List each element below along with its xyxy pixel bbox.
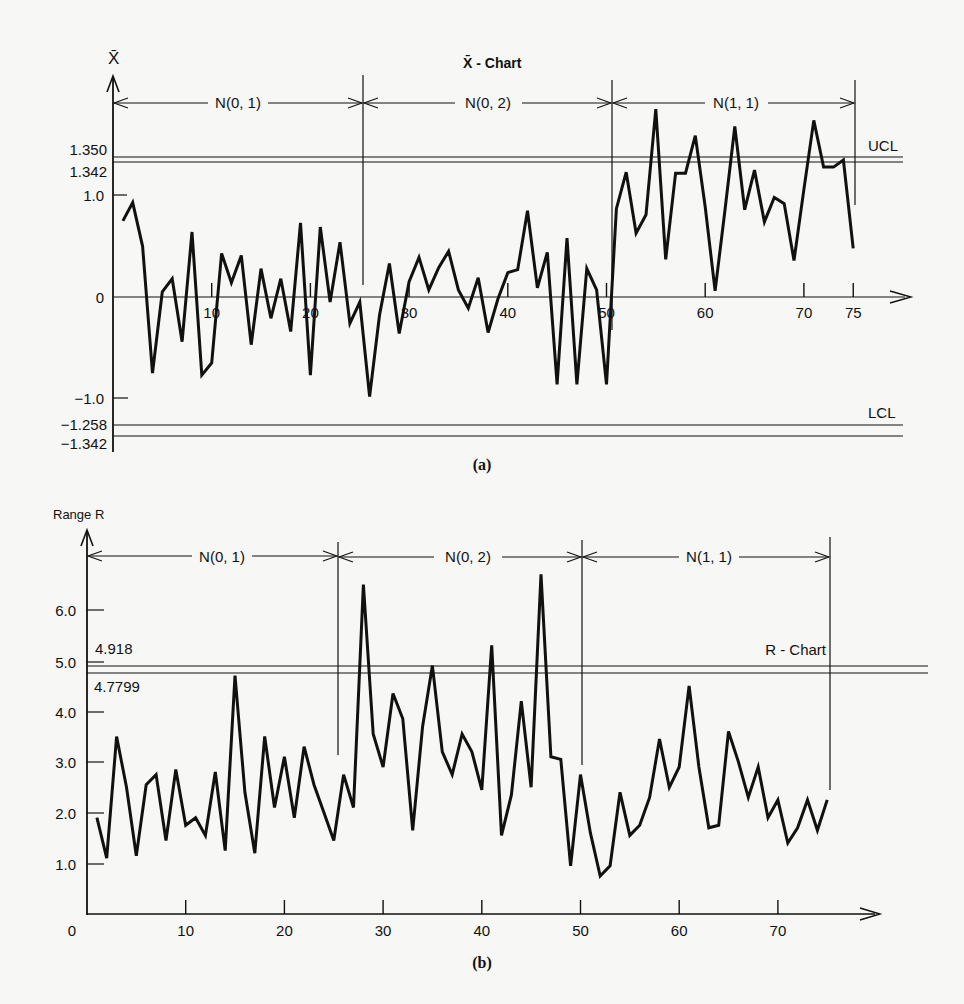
y-tick-label: 2.0 [55,805,76,822]
x-tick-label: 60 [671,922,688,939]
segment-label: N(0, 1) [199,548,245,565]
y-tick-label: 1.0 [83,187,104,204]
segment-label: N(0, 2) [445,548,491,565]
y-tick-label: 1.350 [69,141,107,158]
x-tick-label: 70 [770,922,787,939]
control-charts-figure: X̄ X̄ - Chart N(0, 1) N(0, 2) N(1, 1) UC… [0,0,964,1004]
range-chart-title: R - Chart [765,641,827,658]
range-limit-label: 4.918 [95,640,133,657]
y-tick-label: 3.0 [55,754,76,771]
range-data-line [97,574,827,876]
y-tick-label: 5.0 [55,654,76,671]
segment-label: N(0, 2) [465,94,511,111]
x-tick-label: 75 [845,304,862,321]
y-tick-label: 0 [68,922,76,939]
panel-a-caption: (a) [473,456,492,474]
x-tick-label: 10 [177,922,194,939]
y-tick-label: −1.258 [61,416,107,433]
range-x-ticks: 10203040506070 [177,900,786,939]
segment-label: N(1, 1) [686,548,732,565]
x-tick-label: 40 [473,922,490,939]
segment-label: N(1, 1) [713,94,759,111]
x-tick-label: 40 [499,304,516,321]
xbar-data-line [123,109,853,396]
y-tick-label: 1.342 [69,163,107,180]
y-tick-label: 6.0 [55,602,76,619]
y-tick-label: 0 [96,289,104,306]
xbar-chart: X̄ X̄ - Chart N(0, 1) N(0, 2) N(1, 1) UC… [61,49,911,474]
y-tick-label: 1.0 [55,856,76,873]
xbar-y-label: X̄ [108,49,119,68]
segment-label: N(0, 1) [215,94,261,111]
y-tick-label: 4.0 [55,704,76,721]
panel-b-caption: (b) [472,954,492,972]
x-tick-label: 30 [375,922,392,939]
ucl-label: UCL [868,137,898,154]
xbar-chart-title: X̄ - Chart [463,54,522,71]
y-tick-label: −1.0 [74,390,104,407]
y-tick-label: −1.342 [61,435,107,452]
range-chart: Range R N(0, 1) N(0, 2) N(1, 1) 4.918 4.… [53,507,928,972]
lcl-label: LCL [868,404,896,421]
range-limit-label: 4.7799 [94,678,140,695]
x-tick-label: 70 [796,304,813,321]
x-tick-label: 50 [572,922,589,939]
range-y-label: Range R [53,507,104,522]
x-tick-label: 20 [276,922,293,939]
xbar-x-ticks: 1020304050607075 [203,283,861,321]
x-tick-label: 60 [697,304,714,321]
